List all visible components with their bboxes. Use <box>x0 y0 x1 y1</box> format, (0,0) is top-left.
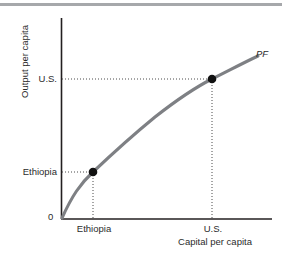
x-tick-label-us: U.S. <box>182 223 244 234</box>
data-point-ethiopia <box>89 168 98 177</box>
y-tick-label-us: U.S. <box>0 73 57 84</box>
data-point-us <box>208 75 217 84</box>
chart-figure: Output per capita U.S. Ethiopia 0 Ethiop… <box>0 0 282 253</box>
y-tick-label-ethiopia: Ethiopia <box>0 166 57 177</box>
curve-label-pf: PF <box>256 48 268 59</box>
production-function-plot <box>0 0 282 253</box>
x-tick-label-ethiopia: Ethiopia <box>63 223 125 234</box>
x-axis-title: Capital per capita <box>152 236 278 247</box>
production-function-curve <box>62 56 258 218</box>
origin-label: 0 <box>48 211 53 222</box>
y-axis-title: Output per capita <box>19 12 30 112</box>
